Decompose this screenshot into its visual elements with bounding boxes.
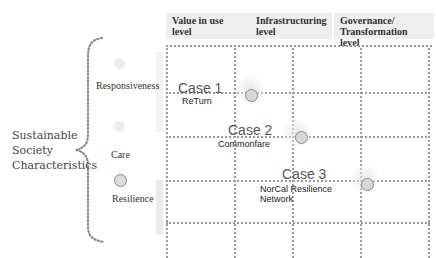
case3-name: NorCal Resilience Network xyxy=(260,184,332,204)
column-header-line2: level xyxy=(256,26,326,37)
row-side-bar xyxy=(156,180,163,235)
column-header-infrastructuring: Infrastructuring level xyxy=(250,13,332,39)
case3-name-line1: NorCal Resilience xyxy=(260,184,332,194)
case2-marker-icon xyxy=(295,131,308,144)
grid-vline xyxy=(428,48,430,258)
grid-vline xyxy=(292,48,294,258)
case2-title: Case 2 xyxy=(228,123,272,137)
main-label-line2: Society xyxy=(12,143,97,158)
characteristic-responsiveness: Responsiveness xyxy=(96,80,159,91)
main-label-line3: Characteristics xyxy=(12,158,97,173)
care-marker-icon xyxy=(114,121,125,132)
column-header-line1: Infrastructuring xyxy=(256,15,326,26)
case1-title: Case 1 xyxy=(178,81,222,95)
main-label: Sustainable Society Characteristics xyxy=(12,128,97,173)
case3-title: Case 3 xyxy=(282,167,326,181)
grid-vline xyxy=(166,48,168,258)
header-divider xyxy=(166,45,432,47)
column-header-line1: Governance/ xyxy=(340,15,428,26)
column-header-governance: Governance/ Transformation level xyxy=(334,13,434,39)
row-side-bar xyxy=(156,52,163,132)
characteristic-care: Care xyxy=(111,149,130,160)
case3-marker-icon xyxy=(361,178,374,191)
main-label-line1: Sustainable xyxy=(12,128,97,143)
grid-vline xyxy=(360,48,362,258)
resilience-marker-icon xyxy=(114,174,127,187)
case3-name-line2: Network xyxy=(260,194,332,204)
case1-name: ReTurn xyxy=(182,96,212,106)
case2-name: Commonfare xyxy=(218,139,270,149)
characteristic-resilience: Resilience xyxy=(112,193,154,204)
responsiveness-marker-icon xyxy=(114,58,125,69)
case1-marker-icon xyxy=(245,89,258,102)
grid-vline xyxy=(234,48,236,258)
grid-hline-bottom xyxy=(166,222,430,224)
